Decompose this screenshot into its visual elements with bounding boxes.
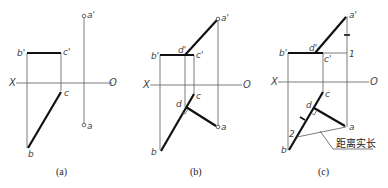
label-c: c (196, 91, 201, 101)
label-c: c (64, 88, 69, 98)
line-d-prime-a-prime (315, 17, 346, 53)
label-a: a (221, 122, 227, 132)
label-b: b (151, 147, 157, 157)
label-a: a (87, 121, 93, 131)
panel-b: X O b' d' c' a' c d b a (b) (142, 13, 251, 178)
axis-label-x: X (8, 77, 17, 88)
label-b-prime: b' (279, 48, 287, 58)
axis-label-x: X (142, 79, 151, 90)
axis-label-o: O (370, 76, 378, 87)
label-1: 1 (349, 49, 355, 59)
label-c-prime: c' (196, 50, 203, 60)
label-a-prime: a' (221, 13, 229, 23)
label-a-prime: a' (349, 10, 357, 20)
label-c: c (325, 89, 330, 99)
point-a (82, 123, 86, 127)
line-b-c (28, 92, 61, 148)
caption-b: (b) (190, 166, 202, 178)
axis-label-o: O (109, 77, 117, 88)
label-b-prime: b' (151, 51, 159, 61)
projection-diagram: X O b' c' a' c b a (a) X O b' d' c' a' c… (0, 0, 388, 188)
axis-label-o: O (243, 79, 251, 90)
label-b: b (281, 145, 287, 155)
label-2: 2 (289, 129, 295, 139)
label-c-prime: c' (63, 47, 70, 57)
label-d-prime: d' (178, 45, 186, 55)
label-b: b (28, 149, 34, 159)
caption-c: (c) (318, 166, 329, 178)
line-d-a (314, 108, 345, 126)
point-a-prime (216, 17, 220, 21)
axis-label-x: X (270, 76, 279, 87)
label-d: d (176, 99, 182, 109)
line-d-a (186, 107, 216, 126)
panel-a: X O b' c' a' c b a (a) (8, 10, 117, 178)
caption-a: (a) (56, 166, 67, 178)
tick-mark-lower (300, 117, 305, 120)
label-b-prime: b' (17, 48, 25, 58)
label-d-prime: d' (309, 43, 317, 53)
label-c-prime: c' (324, 54, 331, 64)
label-d: d (306, 100, 312, 110)
point-a-prime (82, 14, 86, 18)
label-a: a (349, 122, 355, 132)
panel-c: X O b' d' c' a' 1 c d 2 b a 距离实长 (c) (270, 10, 378, 178)
annotation-true-distance: 距离实长 (336, 137, 376, 149)
point-a (216, 125, 220, 129)
true-length-line (297, 127, 346, 137)
label-a-prime: a' (87, 10, 95, 20)
